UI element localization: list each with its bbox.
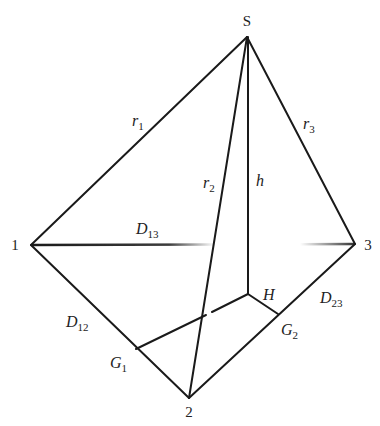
tetrahedron-diagram: S 1 2 3 H G1 G2 r1 r2 r3 h D13 D12 D23 xyxy=(0,0,380,426)
edge-label-d23: D23 xyxy=(319,289,343,309)
edge-label-d12: D12 xyxy=(65,313,89,333)
svg-text:D23: D23 xyxy=(319,289,343,309)
vertex-label-3: 3 xyxy=(364,237,372,253)
edge-r3 xyxy=(247,37,355,244)
point-label-g2: G2 xyxy=(281,321,298,341)
edge-d13-left xyxy=(31,245,215,246)
svg-text:G1: G1 xyxy=(110,354,127,374)
edge-label-h: h xyxy=(256,172,264,189)
edge-r2 xyxy=(189,37,247,398)
edge-r1 xyxy=(31,37,247,245)
svg-text:r3: r3 xyxy=(303,115,315,135)
edge-label-r3: r3 xyxy=(303,115,315,135)
vertex-label-1: 1 xyxy=(11,237,19,253)
edge-label-d13: D13 xyxy=(135,220,159,240)
edge-h-g1-upper xyxy=(212,294,248,312)
svg-text:r1: r1 xyxy=(132,112,144,132)
vertex-label-s: S xyxy=(243,13,251,29)
edge-label-r2: r2 xyxy=(203,174,215,194)
edge-d23 xyxy=(189,244,355,398)
edge-label-r1: r1 xyxy=(132,112,144,132)
point-label-h: H xyxy=(262,286,276,303)
vertex-label-2: 2 xyxy=(185,404,193,420)
svg-text:r2: r2 xyxy=(203,174,215,194)
svg-text:G2: G2 xyxy=(281,321,298,341)
svg-text:D12: D12 xyxy=(65,313,89,333)
svg-text:D13: D13 xyxy=(135,220,159,240)
edge-d12 xyxy=(31,245,189,398)
point-label-g1: G1 xyxy=(110,354,127,374)
edge-h-g1-lower xyxy=(136,315,206,349)
